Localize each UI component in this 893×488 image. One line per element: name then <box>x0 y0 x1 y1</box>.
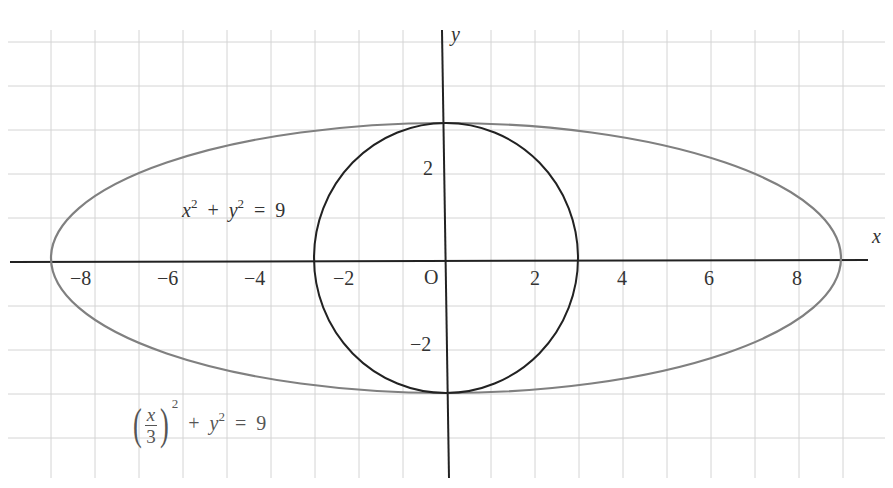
y-tick-label: 2 <box>423 158 433 178</box>
x-tick-label: 8 <box>792 268 802 288</box>
x-tick-label: −4 <box>244 268 265 288</box>
x-tick-label: −2 <box>333 268 354 288</box>
x-axis-label: x <box>872 226 881 246</box>
fraction: x3 <box>145 405 157 446</box>
origin-label: O <box>424 267 438 287</box>
y-axis-label: y <box>451 24 460 44</box>
x-tick-label: −8 <box>70 268 91 288</box>
x-tick-label: 6 <box>704 268 714 288</box>
right-paren: ) <box>160 403 169 447</box>
ellipse-equation: (x3)2 + y2 = 9 <box>130 403 266 447</box>
y-tick-label: −2 <box>410 334 431 354</box>
x-tick-label: 2 <box>530 268 540 288</box>
left-paren: ( <box>133 403 142 447</box>
y-axis <box>442 30 449 478</box>
x-tick-label: 4 <box>617 268 627 288</box>
x-tick-label: −6 <box>157 268 178 288</box>
circle-equation: x2 + y2 = 9 <box>182 200 285 220</box>
